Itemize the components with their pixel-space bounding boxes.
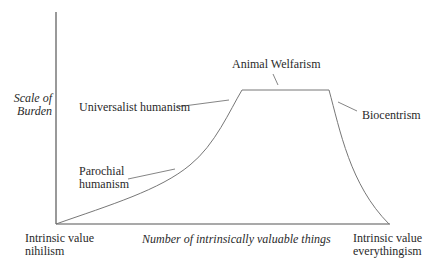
- universalist-humanism-label: Universalist humanism: [79, 101, 190, 114]
- animal-leader-line: [273, 74, 278, 85]
- x-axis-label: Number of intrinsically valuable things: [142, 233, 331, 246]
- biocentrism-leader-line: [338, 102, 357, 111]
- right-endpoint-line2: everythingism: [353, 245, 422, 258]
- y-axis-label-line2: Burden: [4, 105, 52, 118]
- biocentrism-label: Biocentrism: [362, 109, 421, 122]
- left-endpoint-label: Intrinsic value nihilism: [25, 232, 94, 258]
- right-endpoint-label: Intrinsic value everythingism: [353, 232, 422, 258]
- burden-curve-diagram: [0, 0, 431, 268]
- parochial-line2: humanism: [79, 178, 129, 191]
- parochial-humanism-label: Parochial humanism: [79, 165, 129, 191]
- parochial-leader-line: [128, 169, 175, 179]
- left-endpoint-line2: nihilism: [25, 245, 94, 258]
- y-axis-label: Scale of Burden: [4, 92, 52, 118]
- animal-welfarism-label: Animal Welfarism: [232, 58, 320, 71]
